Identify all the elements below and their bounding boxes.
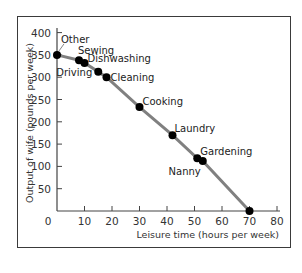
point-label: Dishwashing xyxy=(88,53,151,64)
data-point xyxy=(246,207,254,215)
x-tick-label: 50 xyxy=(188,215,201,227)
x-tick-label: 60 xyxy=(215,215,228,227)
x-tick-label: 70 xyxy=(243,215,256,227)
x-tick-label: 0 xyxy=(45,215,52,227)
data-point xyxy=(53,51,61,59)
production-possibility-chart: 50100150200250300350400 0102030405060708… xyxy=(0,0,302,273)
y-tick-label: 50 xyxy=(38,183,51,195)
data-point xyxy=(94,68,102,76)
x-axis-label: Leisure time (hours per week) xyxy=(136,229,279,240)
x-tick-label: 40 xyxy=(160,215,173,227)
x-tick-label: 80 xyxy=(270,215,283,227)
data-point xyxy=(199,157,207,165)
x-tick-label: 30 xyxy=(133,215,146,227)
data-points: OtherSewingDishwashingDrivingCleaningCoo… xyxy=(53,34,254,215)
point-label: Driving xyxy=(56,67,92,78)
y-tick-label: 400 xyxy=(31,27,51,39)
point-label: Other xyxy=(61,34,90,45)
y-axis-label: Output of wife (pounds per week) xyxy=(24,43,35,203)
point-label: Cooking xyxy=(143,96,183,107)
x-tick-label: 10 xyxy=(78,215,91,227)
point-label: Gardening xyxy=(200,146,252,157)
data-point xyxy=(103,73,111,81)
x-tick-label: 20 xyxy=(105,215,118,227)
point-label: Nanny xyxy=(169,166,201,177)
point-label: Cleaning xyxy=(111,72,155,83)
point-label: Laundry xyxy=(175,123,216,134)
